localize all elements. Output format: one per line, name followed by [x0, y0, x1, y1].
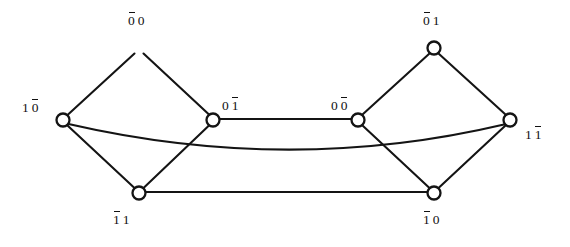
- edge-10b-to-0b0: [144, 54, 210, 115]
- node-1b1[interactable]: [428, 187, 441, 200]
- edge-layer: [68, 54, 506, 193]
- node-00b[interactable]: [504, 114, 517, 127]
- node-label-11b: 11: [525, 128, 542, 142]
- node-01b[interactable]: [352, 114, 365, 127]
- node-label-0b0: 00: [128, 14, 145, 28]
- graph-canvas: [0, 0, 570, 247]
- node-0b1[interactable]: [57, 114, 70, 127]
- node-label-01b: 01: [222, 99, 239, 113]
- node-0b0[interactable]: [428, 42, 441, 55]
- graph-figure: 00 01 10 01 00 11 11 10: [0, 0, 570, 247]
- edge-10b-to-1b1: [144, 126, 210, 189]
- node-label-0b1: 01: [423, 14, 440, 28]
- node-11b[interactable]: [133, 187, 146, 200]
- edge-00b-to-0b1: [439, 54, 506, 115]
- node-label-00b: 00: [331, 99, 348, 113]
- edge-01b-to-00b: [363, 54, 430, 115]
- edge-1b1-to-1b0: [69, 124, 505, 150]
- edge-0b0-to-0b1: [68, 54, 135, 116]
- node-layer: [57, 42, 517, 200]
- node-label-10b: 10: [22, 101, 39, 115]
- node-label-1b0: 10: [423, 213, 440, 227]
- node-label-1b1: 11: [113, 213, 130, 227]
- node-10b[interactable]: [207, 114, 220, 127]
- edge-0b1-to-11b: [363, 126, 430, 189]
